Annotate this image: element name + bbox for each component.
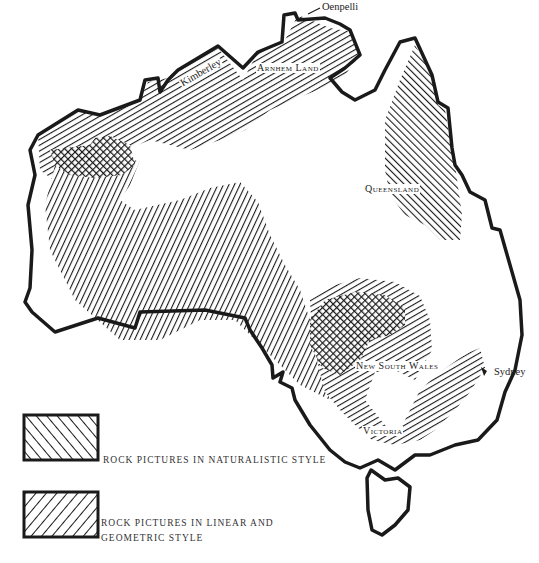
label-new-south-wales: New South Wales	[355, 361, 439, 371]
legend-label-linear-line2: GEOMETRIC STYLE	[101, 531, 203, 545]
legend-label-linear-line1: ROCK PICTURES IN LINEAR AND	[101, 516, 274, 530]
region-western-band	[45, 160, 330, 400]
legend-label-naturalistic: ROCK PICTURES IN NATURALISTIC STYLE	[103, 453, 326, 467]
label-sydney: Sydney	[494, 367, 526, 378]
legend-swatch-naturalistic	[24, 415, 98, 460]
australia-rock-art-map	[0, 0, 539, 563]
label-arnhem-land: Arnhem Land	[256, 63, 320, 73]
label-queensland: Queensland	[364, 184, 420, 194]
oenpelli-pointer	[308, 8, 320, 14]
tasmania-outline	[367, 470, 410, 535]
label-victoria: Victoria	[362, 426, 403, 436]
legend-swatch-linear	[24, 492, 98, 537]
label-oenpelli: Oenpelli	[322, 2, 358, 13]
